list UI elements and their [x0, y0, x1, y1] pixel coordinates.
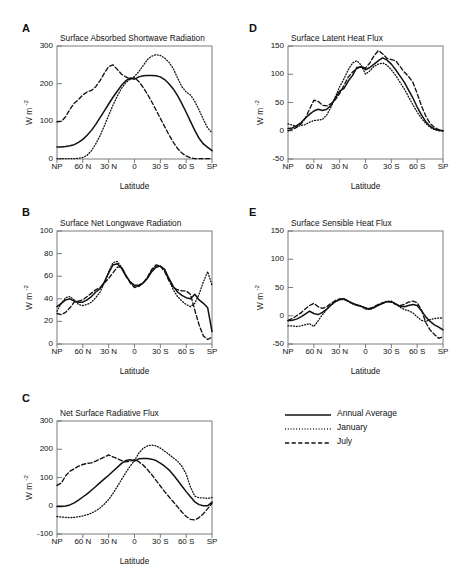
x-axis-label-e: Latitude	[288, 366, 443, 376]
series-line-july	[288, 299, 443, 339]
legend-label: Annual Average	[337, 408, 397, 418]
series-line-january	[288, 299, 443, 326]
plot-area-a	[0, 0, 472, 577]
plot-area-d	[0, 0, 472, 577]
y-tick-label: 100	[23, 226, 53, 235]
series-line-january	[288, 61, 443, 131]
legend-swatch-dotted-icon	[285, 427, 331, 431]
panel-letter-a: A	[22, 22, 30, 34]
y-tick-label: 200	[23, 444, 53, 453]
plot-area-c	[0, 0, 472, 577]
y-tick-label: 0	[23, 501, 53, 510]
x-axis-label-b: Latitude	[57, 366, 212, 376]
series-line-january	[57, 262, 212, 312]
panel-title-b: Surface Net Longwave Radiation	[60, 218, 181, 228]
y-tick-label: 100	[23, 473, 53, 482]
panel-letter-e: E	[249, 206, 256, 218]
legend-label: January	[337, 422, 367, 432]
panel-letter-c: C	[22, 392, 30, 404]
y-tick-label: 100	[23, 116, 53, 125]
y-tick-label: 150	[254, 226, 284, 235]
axis-frame	[288, 46, 443, 159]
axis-frame	[288, 231, 443, 344]
axis-frame	[57, 231, 212, 344]
series-line-annual-average	[288, 58, 443, 131]
x-axis-label-c: Latitude	[57, 556, 212, 566]
x-tick-label: SP	[196, 347, 228, 356]
series-line-annual-average	[57, 264, 212, 332]
plot-area-e	[0, 0, 472, 577]
y-tick-label: 80	[23, 249, 53, 258]
legend-label: July	[337, 436, 352, 446]
series-line-july	[57, 265, 212, 340]
x-tick-label: SP	[196, 537, 228, 546]
panel-letter-d: D	[249, 22, 257, 34]
y-tick-label: 0	[254, 311, 284, 320]
y-tick-label: 50	[254, 283, 284, 292]
y-tick-label: 300	[23, 416, 53, 425]
y-tick-label: 60	[23, 271, 53, 280]
panel-title-d: Surface Latent Heat Flux	[291, 33, 383, 43]
axis-frame	[57, 421, 212, 534]
x-tick-label: SP	[427, 347, 459, 356]
series-line-january	[57, 55, 212, 159]
series-line-annual-average	[57, 75, 212, 150]
plot-area-b	[0, 0, 472, 577]
x-axis-label-d: Latitude	[288, 181, 443, 191]
y-tick-label: 150	[254, 41, 284, 50]
y-tick-label: 20	[23, 316, 53, 325]
panel-title-e: Surface Sensible Heat Flux	[291, 218, 392, 228]
legend-swatch-solid-icon	[285, 413, 331, 417]
y-tick-label: 0	[254, 126, 284, 135]
y-tick-label: 40	[23, 294, 53, 303]
y-tick-label: 50	[254, 98, 284, 107]
series-line-july	[288, 51, 443, 131]
panel-title-a: Surface Absorbed Shortwave Radiation	[60, 33, 205, 43]
figure-root: Annual AverageJanuaryJuly ASurface Absor…	[0, 0, 472, 577]
series-line-july	[57, 65, 212, 159]
y-tick-label: 100	[254, 254, 284, 263]
y-tick-label: 100	[254, 69, 284, 78]
x-tick-label: SP	[196, 162, 228, 171]
legend-swatch-dashed-icon	[285, 441, 331, 445]
x-axis-label-a: Latitude	[57, 181, 212, 191]
y-tick-label: 300	[23, 41, 53, 50]
series-line-july	[57, 455, 212, 520]
panel-letter-b: B	[22, 206, 30, 218]
series-line-annual-average	[57, 459, 212, 507]
panel-title-c: Net Surface Radiative Flux	[60, 408, 159, 418]
x-tick-label: SP	[427, 162, 459, 171]
series-line-january	[57, 445, 212, 518]
axis-frame	[57, 46, 212, 159]
series-line-annual-average	[288, 299, 443, 330]
y-tick-label: 200	[23, 79, 53, 88]
